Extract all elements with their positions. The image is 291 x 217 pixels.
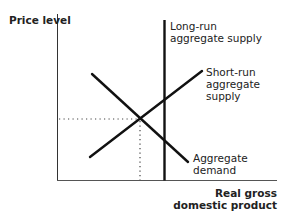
ad-label: Aggregate demand <box>193 152 248 176</box>
sras-label: Short-run aggregate supply <box>206 66 260 102</box>
sras-curve <box>90 71 202 157</box>
lras-label: Long-run aggregate supply <box>170 20 262 44</box>
x-axis-label: Real gross domestic product <box>173 187 277 211</box>
y-axis-label: Price level <box>9 14 71 26</box>
